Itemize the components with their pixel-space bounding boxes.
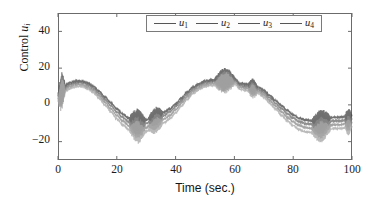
legend-item-u4[interactable]: u4 [276,17,318,30]
x-tick-label-20: 20 [97,163,137,175]
legend-label-u2: u2 [221,17,230,30]
y-tick-label-neg20: −20 [16,133,50,145]
y-axis-title-symbol: u [17,26,31,32]
y-axis-title-subscript: i [23,24,32,26]
legend-label-u3: u3 [263,17,272,30]
legend-item-u1[interactable]: u1 [150,17,192,30]
x-tick-label-60: 60 [215,163,255,175]
legend-item-u3[interactable]: u3 [234,17,276,30]
legend: u1 u2 u3 u4 [146,15,322,32]
legend-line-icon [238,23,260,24]
legend-line-icon [154,23,176,24]
y-axis-title: Control ui [17,0,32,108]
y-axis-title-text: Control [17,35,31,72]
plot-area [58,13,352,160]
x-tick-label-0: 0 [38,163,78,175]
legend-item-u2[interactable]: u2 [192,17,234,30]
x-tick-label-80: 80 [273,163,313,175]
legend-label-u4: u4 [305,17,314,30]
legend-line-icon [280,23,302,24]
x-tick-label-100: 100 [332,163,372,175]
figure-chart-control-signals: 40 20 0 −20 0 20 40 60 80 100 Time (sec.… [0,0,372,207]
x-axis-title: Time (sec.) [58,181,352,195]
legend-line-icon [196,23,218,24]
legend-label-u1: u1 [179,17,188,30]
x-tick-label-40: 40 [156,163,196,175]
